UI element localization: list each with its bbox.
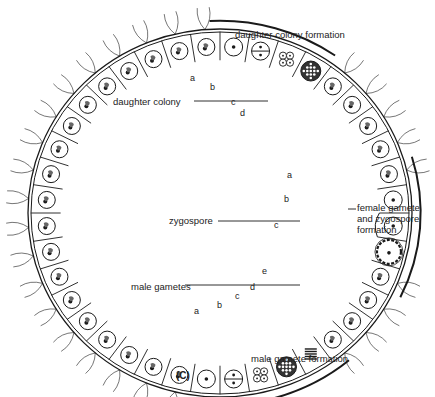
stage-letter-male-c: c (235, 291, 240, 301)
colony-ring-illustration (0, 0, 435, 397)
label-male-gametes: male gametes (131, 281, 191, 292)
label-daughter-colony-formation: daughter colony formation (235, 29, 345, 40)
stage-letter-daughter-d: d (240, 108, 245, 118)
label-female-gamete-line2: and zygospore (357, 213, 419, 224)
stage-letter-daughter-c: c (231, 97, 236, 107)
label-female-gamete-line3: formation (357, 224, 397, 235)
label-male-gamete-formation: male gamete formation (251, 353, 348, 364)
label-female-gamete-line1: female gamete (357, 202, 420, 213)
label-zygospore: zygospore (169, 215, 213, 226)
stage-letter-female-a: a (287, 170, 292, 180)
panel-label: (C) (176, 370, 190, 381)
stage-letter-daughter-a: a (190, 73, 195, 83)
stage-letter-male-e: e (262, 266, 267, 276)
stage-letter-male-d: d (250, 282, 255, 292)
stage-letter-daughter-b: b (210, 82, 215, 92)
stage-letter-male-b: b (217, 300, 222, 310)
volvox-colony-diagram: daughter colony formation daughter colon… (0, 0, 435, 397)
stage-letter-female-c: c (274, 220, 279, 230)
stage-letter-female-b: b (284, 194, 289, 204)
label-daughter-colony: daughter colony (113, 96, 181, 107)
stage-letter-male-a: a (194, 306, 199, 316)
